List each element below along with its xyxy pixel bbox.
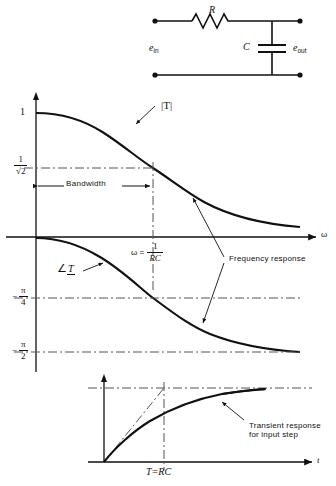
input-voltage-label: ein bbox=[149, 42, 159, 54]
half-power-numerator: 1 bbox=[14, 155, 27, 166]
output-voltage-sub: out bbox=[297, 47, 306, 54]
corner-frequency-denominator: RC bbox=[147, 253, 163, 263]
capacitor-label: C bbox=[243, 41, 250, 52]
phase-tick-minus-pi-over-2: − π 2 bbox=[12, 340, 28, 361]
magnitude-curve-label: |T| bbox=[161, 99, 172, 111]
transient-curve-tail bbox=[222, 389, 264, 394]
y-tick-one-over-root-two-label: 1 √2 bbox=[14, 155, 27, 176]
bandwidth-label: Bandwidth bbox=[66, 180, 106, 189]
time-constant-label: T=RC bbox=[146, 466, 171, 477]
resistor-icon bbox=[192, 14, 236, 28]
magnitude-label-leader bbox=[136, 106, 155, 124]
phase-curve-label: ∠T bbox=[57, 262, 75, 275]
transient-response-axes bbox=[88, 374, 312, 462]
transient-response-line2: for input step bbox=[249, 430, 298, 439]
corner-frequency-omega: ω = bbox=[131, 248, 144, 257]
capacitor-icon bbox=[258, 21, 286, 75]
corner-frequency-numerator: 1 bbox=[147, 242, 163, 253]
phase-level-lines bbox=[14, 298, 300, 352]
resistor-label: R bbox=[209, 4, 215, 15]
corner-frequency-label: ω = 1 RC bbox=[131, 242, 163, 263]
omega-axis-label: ω bbox=[321, 231, 327, 240]
transient-response-line1: Transient response bbox=[249, 421, 321, 430]
phase-quarter-sign: − bbox=[12, 291, 17, 301]
phase-quarter-denominator: 4 bbox=[19, 297, 28, 307]
phase-tick-minus-pi-over-4: − π 4 bbox=[12, 286, 28, 307]
circuit-diagram bbox=[152, 14, 302, 78]
output-voltage-label: eout bbox=[293, 42, 307, 54]
time-axis-label: t bbox=[317, 455, 320, 465]
phase-half-sign: − bbox=[12, 345, 17, 355]
half-power-denominator: √2 bbox=[14, 166, 27, 176]
transient-vertical-axis-arrow bbox=[101, 374, 107, 382]
phase-half-numerator: π bbox=[19, 340, 28, 351]
rc-filter-figure bbox=[0, 0, 336, 486]
circuit-terminals bbox=[152, 18, 302, 77]
frequency-response-axes bbox=[6, 92, 316, 372]
angle-icon: ∠ bbox=[57, 262, 67, 274]
y-tick-one-label: 1 bbox=[20, 106, 25, 117]
frequency-response-annotation: Frequency response bbox=[229, 255, 306, 264]
transient-response-annotation: Transient response for input step bbox=[249, 422, 321, 440]
transient-curve bbox=[104, 389, 265, 462]
phase-label-leader bbox=[83, 263, 103, 271]
vertical-axis-arrow bbox=[33, 92, 39, 100]
phase-curve-label-var: T bbox=[67, 263, 75, 275]
phase-quarter-numerator: π bbox=[19, 286, 28, 297]
phase-half-denominator: 2 bbox=[19, 351, 28, 361]
transient-label-leader bbox=[222, 402, 244, 420]
frequency-response-leaders bbox=[193, 198, 224, 323]
magnitude-curve bbox=[36, 113, 300, 227]
input-voltage-sub: in bbox=[153, 47, 158, 54]
